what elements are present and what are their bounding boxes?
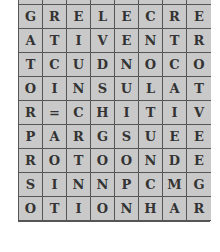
- grid-cell[interactable]: D: [163, 149, 187, 173]
- grid-cell[interactable]: E: [115, 29, 139, 53]
- grid-cell[interactable]: =: [43, 101, 67, 125]
- grid-cell[interactable]: L: [139, 77, 163, 101]
- grid-cell[interactable]: N: [139, 149, 163, 173]
- grid-cell[interactable]: H: [91, 101, 115, 125]
- grid-cell[interactable]: V: [91, 29, 115, 53]
- grid-cell[interactable]: N: [115, 53, 139, 77]
- grid-cell[interactable]: U: [115, 77, 139, 101]
- grid-cell[interactable]: P: [19, 125, 43, 149]
- grid-cell[interactable]: N: [139, 29, 163, 53]
- grid-cell[interactable]: G: [187, 173, 211, 197]
- grid-cell[interactable]: C: [139, 5, 163, 29]
- grid-cell[interactable]: T: [139, 101, 163, 125]
- grid-cell[interactable]: T: [187, 77, 211, 101]
- grid-cell[interactable]: C: [163, 53, 187, 77]
- grid-cell[interactable]: R: [43, 5, 67, 29]
- grid-cell[interactable]: A: [19, 29, 43, 53]
- grid-cell[interactable]: O: [19, 197, 43, 221]
- grid-cell[interactable]: N: [91, 173, 115, 197]
- grid-cell[interactable]: N: [115, 197, 139, 221]
- grid-cell[interactable]: I: [43, 77, 67, 101]
- grid-cell[interactable]: E: [115, 5, 139, 29]
- grid-cell[interactable]: P: [115, 173, 139, 197]
- grid-cell[interactable]: E: [187, 149, 211, 173]
- grid-cell[interactable]: R: [163, 5, 187, 29]
- grid-cell[interactable]: T: [43, 197, 67, 221]
- grid-cell[interactable]: D: [91, 53, 115, 77]
- grid-cell[interactable]: O: [91, 149, 115, 173]
- grid-cell[interactable]: O: [91, 197, 115, 221]
- grid-cell[interactable]: I: [67, 29, 91, 53]
- grid-cell[interactable]: T: [67, 149, 91, 173]
- grid-cell[interactable]: H: [139, 197, 163, 221]
- grid-cell[interactable]: I: [115, 101, 139, 125]
- grid-cell[interactable]: T: [163, 29, 187, 53]
- grid-cell[interactable]: E: [187, 5, 211, 29]
- grid-cell[interactable]: O: [187, 53, 211, 77]
- grid-cell[interactable]: U: [67, 53, 91, 77]
- grid-cell[interactable]: E: [187, 125, 211, 149]
- grid-cell[interactable]: C: [43, 53, 67, 77]
- grid-cell[interactable]: R: [187, 197, 211, 221]
- grid-cell[interactable]: I: [163, 101, 187, 125]
- grid-cell[interactable]: R: [187, 29, 211, 53]
- grid-cell[interactable]: O: [43, 149, 67, 173]
- grid-cell[interactable]: U: [139, 125, 163, 149]
- grid-cell[interactable]: C: [139, 173, 163, 197]
- grid-cell[interactable]: T: [43, 29, 67, 53]
- grid-cell[interactable]: G: [91, 125, 115, 149]
- grid-cell[interactable]: O: [139, 53, 163, 77]
- grid-cell[interactable]: A: [43, 125, 67, 149]
- word-search-grid: GRELECREATIVENTRTCUDNOCOOINSULATR=CHITIV…: [18, 0, 210, 222]
- grid-cell[interactable]: I: [43, 173, 67, 197]
- grid-cell[interactable]: M: [163, 173, 187, 197]
- grid-cell[interactable]: I: [67, 197, 91, 221]
- grid-cell[interactable]: S: [91, 77, 115, 101]
- grid-cell[interactable]: E: [67, 5, 91, 29]
- grid-cell[interactable]: T: [19, 53, 43, 77]
- grid-cell[interactable]: N: [67, 173, 91, 197]
- grid-cell[interactable]: A: [163, 197, 187, 221]
- grid-cell[interactable]: O: [115, 149, 139, 173]
- grid-cell[interactable]: R: [19, 149, 43, 173]
- grid-cell[interactable]: S: [19, 173, 43, 197]
- grid-cell[interactable]: C: [67, 101, 91, 125]
- grid-cell[interactable]: S: [115, 125, 139, 149]
- grid-cell[interactable]: G: [19, 5, 43, 29]
- grid-cell[interactable]: O: [19, 77, 43, 101]
- grid-cell[interactable]: A: [163, 77, 187, 101]
- grid-cell[interactable]: N: [67, 77, 91, 101]
- grid-cell[interactable]: R: [67, 125, 91, 149]
- grid-cell[interactable]: E: [163, 125, 187, 149]
- grid-cell[interactable]: V: [187, 101, 211, 125]
- grid-cell[interactable]: R: [19, 101, 43, 125]
- grid-cell[interactable]: L: [91, 5, 115, 29]
